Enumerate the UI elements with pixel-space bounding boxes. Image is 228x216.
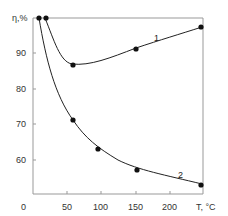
chart: 90 80 70 60 0 50 100 150 200 η,% T, °C 1…	[0, 0, 228, 216]
curve-2-markers	[70, 117, 203, 187]
x-tick-label-50: 50	[62, 202, 72, 212]
y-tick-label-80: 80	[16, 84, 26, 94]
y-tick-label-70: 70	[16, 119, 26, 129]
x-axis-label: T, °C	[196, 202, 216, 212]
curve-1	[45, 18, 202, 64]
y-tick-label-90: 90	[16, 48, 26, 58]
curve-1-label: 1	[154, 33, 159, 43]
y-axis-label: η,%	[12, 13, 28, 23]
x-tick-label-100: 100	[93, 202, 108, 212]
y-tick-label-60: 60	[16, 155, 26, 165]
x-tick-label-200: 200	[162, 202, 177, 212]
x-tick-label-150: 150	[128, 202, 143, 212]
curve-1-markers	[36, 15, 203, 67]
curve-2	[39, 18, 202, 184]
curve-2-label: 2	[178, 170, 183, 180]
x-tick-label-0: 0	[21, 202, 26, 212]
